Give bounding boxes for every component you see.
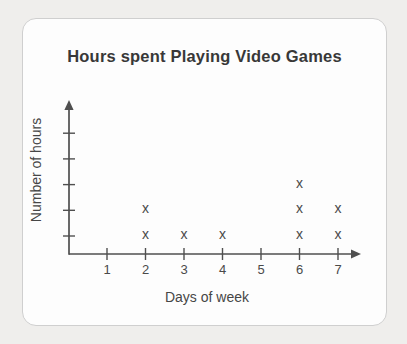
line-plot-canvas: 1234567xxxxxxxxxDays of weekNumber of ho…	[23, 19, 388, 326]
y-axis-arrow-icon	[64, 100, 73, 110]
x-marker: x	[296, 226, 303, 242]
x-marker: x	[296, 200, 303, 216]
x-marker: x	[296, 175, 303, 191]
x-marker: x	[335, 200, 342, 216]
x-marker: x	[335, 226, 342, 242]
y-axis-label: Number of hours	[28, 118, 44, 222]
x-marker: x	[219, 226, 226, 242]
x-axis-arrow-icon	[351, 249, 361, 258]
x-tick-label: 7	[334, 262, 341, 277]
x-tick-label: 2	[142, 262, 149, 277]
chart-card: Hours spent Playing Video Games 1234567x…	[22, 18, 387, 326]
x-tick-label: 4	[219, 262, 226, 277]
x-marker: x	[142, 226, 149, 242]
x-tick-label: 1	[103, 262, 110, 277]
x-marker: x	[142, 200, 149, 216]
x-tick-label: 6	[296, 262, 303, 277]
x-tick-label: 5	[257, 262, 264, 277]
x-tick-label: 3	[180, 262, 187, 277]
x-axis-label: Days of week	[165, 289, 250, 305]
x-marker: x	[181, 226, 188, 242]
page-background: Hours spent Playing Video Games 1234567x…	[0, 0, 407, 344]
